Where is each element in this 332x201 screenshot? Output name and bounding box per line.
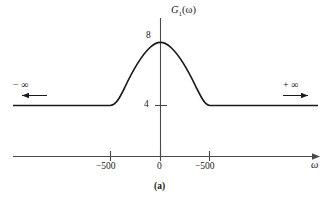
y-tick-label-4: 4	[144, 100, 149, 110]
figure-container: G1(ω) 8 4 −500 0 −500 ω − ∞ + ∞ (a)	[0, 0, 332, 201]
left-infinity-label: − ∞	[13, 80, 28, 90]
y-axis-label-base: G	[171, 4, 179, 15]
right-infinity-arrow	[283, 93, 308, 98]
figure-caption: (a)	[154, 182, 165, 192]
x-tick-label-left: −500	[96, 162, 116, 172]
x-tick-label-right: −500	[195, 162, 215, 172]
left-arrow-head	[22, 93, 29, 98]
y-tick-label-8: 8	[146, 31, 151, 41]
g1-curve-path	[13, 42, 318, 105]
right-arrow-head	[301, 93, 308, 98]
left-infinity-arrow	[22, 93, 47, 98]
x-axis	[13, 153, 320, 160]
figure-plot-canvas	[0, 0, 332, 201]
y-axis-label: G1(ω)	[171, 5, 196, 18]
y-axis-label-argument: (ω)	[182, 4, 196, 15]
x-tick-label-center: 0	[157, 162, 162, 172]
x-axis-label: ω	[311, 160, 318, 171]
right-infinity-label: + ∞	[283, 80, 298, 90]
signal-curve	[13, 42, 318, 105]
